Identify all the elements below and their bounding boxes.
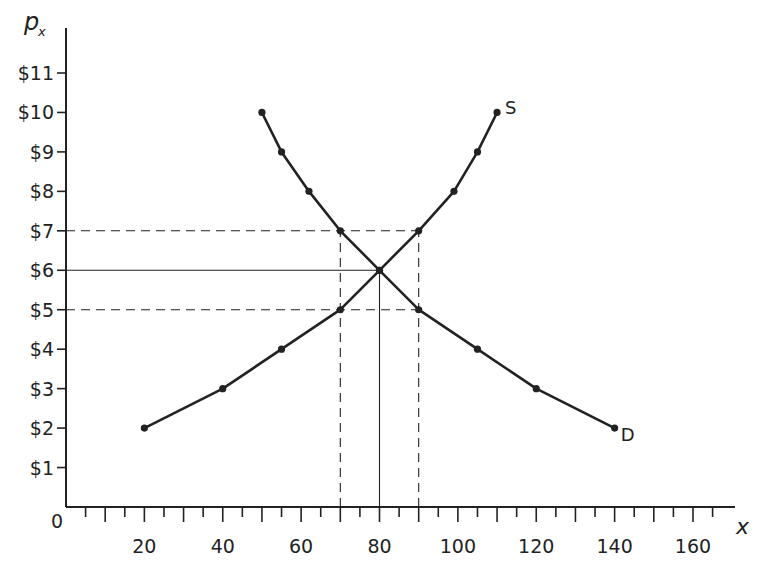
y-tick-label: $11 <box>18 62 54 84</box>
x-tick-label: 100 <box>440 535 476 557</box>
data-point <box>141 424 148 431</box>
data-point <box>450 188 457 195</box>
x-tick-label: 140 <box>596 535 632 557</box>
data-point <box>305 188 312 195</box>
curves: SD <box>141 97 635 445</box>
y-tick-label: $2 <box>30 417 54 439</box>
y-axis-label: p <box>23 8 39 36</box>
data-point <box>219 385 226 392</box>
axes <box>66 28 735 507</box>
data-point <box>474 346 481 353</box>
y-tick-label: $8 <box>30 180 54 202</box>
supply-demand-chart: $1$2$3$4$5$6$7$8$9$10$11 204060801001201… <box>0 0 765 574</box>
x-tick-label: 80 <box>367 535 391 557</box>
y-tick-label: $7 <box>30 220 54 242</box>
y-tick-label: $10 <box>18 101 54 123</box>
x-axis-ticks: 20406080100120140160 <box>86 507 713 557</box>
x-tick-label: 160 <box>675 535 711 557</box>
x-axis-label: x <box>735 514 750 539</box>
y-tick-label: $9 <box>30 141 54 163</box>
y-tick-label: $1 <box>30 457 54 479</box>
y-tick-label: $5 <box>30 299 54 321</box>
y-axis-ticks: $1$2$3$4$5$6$7$8$9$10$11 <box>18 62 66 479</box>
x-tick-label: 60 <box>289 535 313 557</box>
data-point <box>337 306 344 313</box>
data-point <box>493 109 500 116</box>
data-point <box>415 227 422 234</box>
y-axis-label-subscript: x <box>37 24 46 39</box>
x-tick-label: 40 <box>211 535 235 557</box>
reference-lines <box>66 231 419 507</box>
data-point <box>278 148 285 155</box>
data-point <box>278 346 285 353</box>
data-point <box>376 267 383 274</box>
data-point <box>474 148 481 155</box>
data-point <box>611 424 618 431</box>
demand-curve-label: D <box>621 424 635 445</box>
origin-label: 0 <box>51 510 63 532</box>
data-point <box>415 306 422 313</box>
data-point <box>258 109 265 116</box>
y-tick-label: $4 <box>30 338 54 360</box>
y-tick-label: $3 <box>30 378 54 400</box>
x-tick-label: 120 <box>518 535 554 557</box>
data-point <box>533 385 540 392</box>
x-tick-label: 20 <box>132 535 156 557</box>
data-point <box>337 227 344 234</box>
supply-curve-label: S <box>505 97 516 118</box>
y-tick-label: $6 <box>30 259 54 281</box>
